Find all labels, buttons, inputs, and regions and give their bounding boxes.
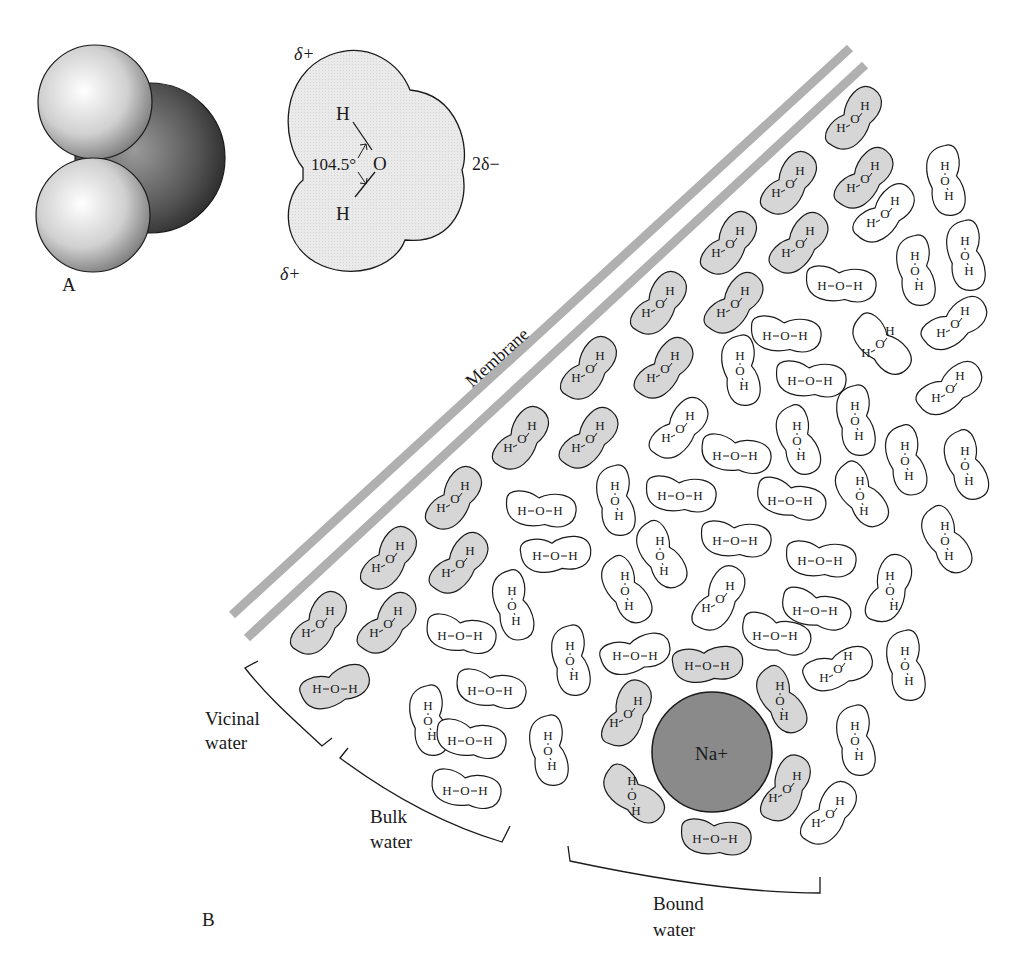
svg-text:H: H xyxy=(371,560,380,575)
svg-text:O: O xyxy=(715,591,724,606)
svg-text:H: H xyxy=(565,638,574,653)
svg-text:O: O xyxy=(795,236,804,251)
delta-plus-top-label: δ+ xyxy=(294,44,315,64)
svg-text:O: O xyxy=(850,111,859,126)
svg-text:H: H xyxy=(811,815,820,830)
svg-text:O: O xyxy=(945,381,954,396)
bulk-water-label-line1: Bulk xyxy=(370,806,407,827)
svg-text:H: H xyxy=(701,600,710,615)
svg-text:O: O xyxy=(610,493,619,508)
water-molecule: HOH xyxy=(424,612,499,657)
svg-text:H: H xyxy=(889,598,898,613)
svg-text:H: H xyxy=(595,348,604,363)
svg-text:H: H xyxy=(940,158,949,173)
water-molecule: HOH xyxy=(598,629,674,680)
svg-text:O: O xyxy=(655,548,664,563)
svg-text:H: H xyxy=(792,418,801,433)
sodium-ion-label: Na+ xyxy=(695,743,728,764)
svg-text:H: H xyxy=(964,263,973,278)
svg-text:O: O xyxy=(383,616,392,631)
svg-text:H: H xyxy=(792,768,801,783)
bound-water-molecule: HOH xyxy=(598,675,658,753)
bulk-water-label-line2: water xyxy=(370,831,413,852)
svg-text:H: H xyxy=(768,790,777,805)
svg-text:H: H xyxy=(543,728,552,743)
panel-b-label: B xyxy=(202,909,215,930)
water-molecule: HOH xyxy=(805,265,878,305)
water-molecule: HOH xyxy=(893,233,938,308)
svg-text:H: H xyxy=(870,158,879,173)
svg-text:H: H xyxy=(685,408,694,423)
water-molecule: HOH xyxy=(880,423,931,499)
svg-text:O: O xyxy=(940,173,949,188)
svg-text:H: H xyxy=(752,628,761,643)
svg-text:H: H xyxy=(532,548,541,563)
svg-text:O: O xyxy=(735,363,744,378)
bound-water-bracket xyxy=(568,846,820,893)
space-filling-water-model xyxy=(36,45,225,272)
svg-text:O: O xyxy=(880,206,889,221)
svg-text:H: H xyxy=(503,440,512,455)
water-molecule: HOH xyxy=(770,402,826,479)
svg-text:H: H xyxy=(447,733,456,748)
svg-text:H: H xyxy=(648,648,657,663)
svg-text:O: O xyxy=(620,583,629,598)
bound-water-molecule: HOH xyxy=(297,659,374,715)
bound-water-label-line2: water xyxy=(653,919,696,940)
vicinal-water-label-line1: Vicinal xyxy=(205,708,260,729)
water-molecule: HOH xyxy=(833,383,878,458)
svg-text:O: O xyxy=(455,628,464,643)
svg-text:H: H xyxy=(503,683,512,698)
water-molecule: HOH xyxy=(775,360,848,400)
svg-text:O: O xyxy=(385,551,394,566)
svg-text:H: H xyxy=(890,193,899,208)
svg-text:H: H xyxy=(507,583,516,598)
svg-text:H: H xyxy=(620,568,629,583)
svg-text:H: H xyxy=(740,283,749,298)
svg-text:H: H xyxy=(904,468,913,483)
water-molecule: HOH xyxy=(718,333,763,408)
svg-text:H: H xyxy=(393,603,402,618)
svg-text:H: H xyxy=(720,658,729,673)
svg-text:H: H xyxy=(854,428,863,443)
svg-text:O: O xyxy=(315,616,324,631)
svg-text:H: H xyxy=(657,488,666,503)
svg-text:H: H xyxy=(853,278,862,293)
svg-text:H: H xyxy=(467,683,476,698)
water-molecule: HOH xyxy=(699,432,774,477)
svg-text:H: H xyxy=(595,418,604,433)
svg-text:H: H xyxy=(788,628,797,643)
svg-text:H: H xyxy=(609,715,618,730)
svg-text:O: O xyxy=(855,488,864,503)
svg-text:H: H xyxy=(748,533,757,548)
water-molecule: HOH xyxy=(912,355,989,423)
svg-text:O: O xyxy=(833,661,842,676)
svg-text:O: O xyxy=(585,431,594,446)
svg-text:H: H xyxy=(817,278,826,293)
water-molecule: HOH xyxy=(796,776,864,853)
svg-text:H: H xyxy=(437,628,446,643)
svg-text:H: H xyxy=(716,305,725,320)
svg-text:H: H xyxy=(846,180,855,195)
svg-text:H: H xyxy=(712,533,721,548)
svg-text:O: O xyxy=(770,628,779,643)
svg-text:O: O xyxy=(825,806,834,821)
svg-text:H: H xyxy=(859,503,868,518)
panel-a-label: A xyxy=(62,274,76,295)
svg-text:O: O xyxy=(702,658,711,673)
svg-text:H: H xyxy=(944,548,953,563)
svg-text:O: O xyxy=(660,361,669,376)
svg-text:O: O xyxy=(725,236,734,251)
svg-text:H: H xyxy=(855,473,864,488)
svg-text:O: O xyxy=(782,781,791,796)
svg-text:H: H xyxy=(460,478,469,493)
svg-text:O: O xyxy=(485,683,494,698)
water-molecule: HOH xyxy=(519,535,592,575)
svg-text:H: H xyxy=(569,668,578,683)
svg-text:H: H xyxy=(646,370,655,385)
svg-text:O: O xyxy=(815,553,824,568)
svg-text:H: H xyxy=(627,773,636,788)
svg-text:H: H xyxy=(301,625,310,640)
svg-text:H: H xyxy=(436,500,445,515)
svg-text:H: H xyxy=(614,508,623,523)
